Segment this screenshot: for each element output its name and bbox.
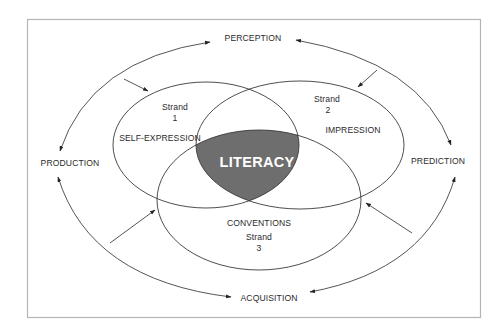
label-acquisition: ACQUISITION	[241, 293, 298, 303]
strand-2-label: Strand	[314, 94, 340, 104]
label-production: PRODUCTION	[41, 158, 100, 168]
arc-acquisition-production	[58, 177, 231, 297]
strand-1-number: 1	[173, 113, 178, 123]
strand-2-number: 2	[326, 105, 331, 115]
diagram-canvas: PERCEPTION PREDICTION ACQUISITION PRODUC…	[0, 0, 498, 336]
strand-1-name: SELF-EXPRESSION	[119, 133, 201, 143]
label-perception: PERCEPTION	[225, 33, 282, 43]
arrow-into-strand-3-left	[110, 210, 155, 243]
strand-3-number: 3	[257, 243, 262, 253]
arrow-into-strand-2	[358, 70, 377, 87]
label-prediction: PREDICTION	[411, 156, 465, 166]
literacy-label: LITERACY	[220, 154, 295, 170]
arc-prediction-acquisition	[310, 177, 455, 292]
strand-3-label: Strand	[246, 232, 272, 242]
strand-1-label: Strand	[162, 102, 188, 112]
arrow-into-strand-1	[124, 79, 148, 91]
strand-3-name: CONVENTIONS	[227, 218, 291, 228]
strand-2-name: IMPRESSION	[326, 125, 381, 135]
arrow-into-strand-3-right	[366, 203, 412, 233]
